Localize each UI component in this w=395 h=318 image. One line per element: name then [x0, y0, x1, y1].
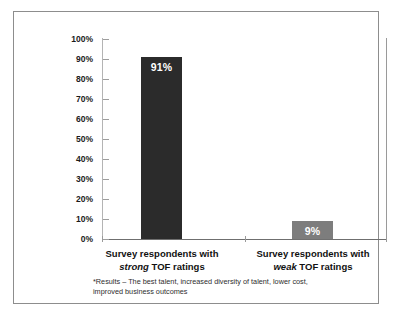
y-tick-mark [103, 139, 109, 140]
category-label-weak-tail: TOF ratings [297, 261, 353, 272]
y-tick-mark [103, 219, 109, 220]
y-tick-mark [103, 179, 109, 180]
bar-weak-tof: 9% [292, 221, 333, 239]
category-label-weak-line1: Survey respondents with [257, 248, 370, 259]
y-tick-label: 20% [53, 195, 93, 204]
x-tick-mark [102, 236, 103, 242]
y-tick-label: 0% [53, 235, 93, 244]
bar-value-label-strong: 91% [141, 61, 182, 73]
y-tick-label: 70% [53, 95, 93, 104]
y-tick-mark [103, 99, 109, 100]
y-tick-label: 40% [53, 155, 93, 164]
x-tick-mark [245, 236, 246, 242]
plot-right-border [386, 38, 387, 240]
y-tick-label: 90% [53, 55, 93, 64]
category-label-strong-line1: Survey respondents with [106, 248, 219, 259]
y-tick-mark [103, 199, 109, 200]
plot-area: 100% 90% 80% 70% 60% 50% 40% 30% 20% 10%… [102, 38, 387, 240]
x-tick-mark [386, 236, 387, 242]
y-tick-label: 30% [53, 175, 93, 184]
y-tick-mark [103, 79, 109, 80]
y-tick-mark [103, 119, 109, 120]
y-tick-mark [103, 39, 109, 40]
chart-figure: % REPORTING POSITIVE RESULTS 100% 90% 80… [0, 0, 395, 318]
y-tick-mark [103, 159, 109, 160]
y-tick-label: 80% [53, 75, 93, 84]
category-label-strong: Survey respondents with strong TOF ratin… [87, 248, 237, 273]
y-tick-label: 60% [53, 115, 93, 124]
category-label-strong-emphasis: strong [119, 261, 149, 272]
bar-value-label-weak: 9% [292, 225, 333, 237]
category-label-weak-emphasis: weak [273, 261, 296, 272]
category-label-strong-tail: TOF ratings [149, 261, 205, 272]
y-tick-mark [103, 59, 109, 60]
bar-strong-tof: 91% [141, 57, 182, 239]
footnote-line-2: improved business outcomes [93, 287, 373, 297]
chart-frame-border: % REPORTING POSITIVE RESULTS 100% 90% 80… [13, 11, 379, 304]
footnote-line-1: *Results – The best talent, increased di… [93, 277, 373, 287]
y-tick-label: 100% [53, 35, 93, 44]
footnote: *Results – The best talent, increased di… [93, 277, 373, 297]
y-tick-mark [103, 239, 109, 240]
y-tick-label: 50% [53, 135, 93, 144]
y-tick-label: 10% [53, 215, 93, 224]
category-label-weak: Survey respondents with weak TOF ratings [238, 248, 388, 273]
